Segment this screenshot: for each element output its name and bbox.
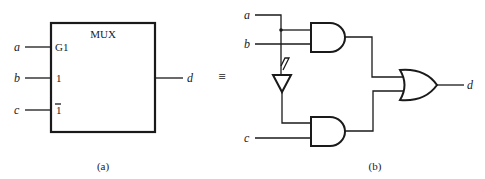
and-gate-2-icon — [311, 117, 345, 146]
mux-pin-1: 1 — [56, 72, 62, 84]
mux-input-b-label: b — [14, 71, 20, 85]
mux-input-a-label: a — [14, 40, 20, 54]
diagram-canvas: MUX a G1 b 1 c 1 d (a) ≡ a b c — [0, 0, 485, 179]
caption-b: (b) — [369, 160, 382, 173]
mux-pin-g1: G1 — [55, 41, 68, 53]
mux-pin-1-bar: 1 — [56, 104, 62, 116]
and-gate-1-icon — [311, 23, 345, 52]
circuit-input-c-label: c — [244, 131, 250, 145]
wire-a — [255, 15, 281, 75]
mux-output-label: d — [187, 71, 194, 85]
circuit-input-a-label: a — [244, 8, 250, 22]
circuit-input-b-label: b — [244, 37, 250, 51]
caption-a: (a) — [97, 160, 110, 173]
or-gate-icon — [400, 70, 437, 100]
mux-block: MUX a G1 b 1 c 1 d (a) — [14, 23, 194, 173]
negation-flag-icon — [281, 58, 289, 70]
mux-title: MUX — [90, 28, 116, 40]
not-gate-icon — [273, 75, 291, 92]
equivalence-symbol: ≡ — [218, 69, 225, 84]
wire-and1-to-or — [345, 37, 403, 77]
wire-not-a-to-and2 — [282, 92, 311, 123]
circuit-output-label: d — [467, 78, 474, 92]
wire-and2-to-or — [345, 91, 403, 131]
mux-input-c-label: c — [14, 103, 20, 117]
gate-circuit: a b c d (b) — [244, 8, 474, 173]
